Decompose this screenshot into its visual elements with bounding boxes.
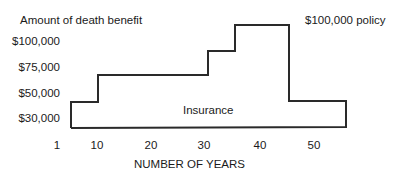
x-tick-1: 1	[45, 139, 69, 151]
x-tick-50: 50	[302, 139, 326, 151]
x-axis-title: NUMBER OF YEARS	[134, 158, 245, 170]
x-tick-10: 10	[85, 139, 109, 151]
x-tick-30: 30	[192, 139, 216, 151]
x-tick-20: 20	[139, 139, 163, 151]
x-tick-40: 40	[248, 139, 272, 151]
step-plot	[0, 0, 407, 178]
insurance-annotation: Insurance	[183, 104, 234, 116]
